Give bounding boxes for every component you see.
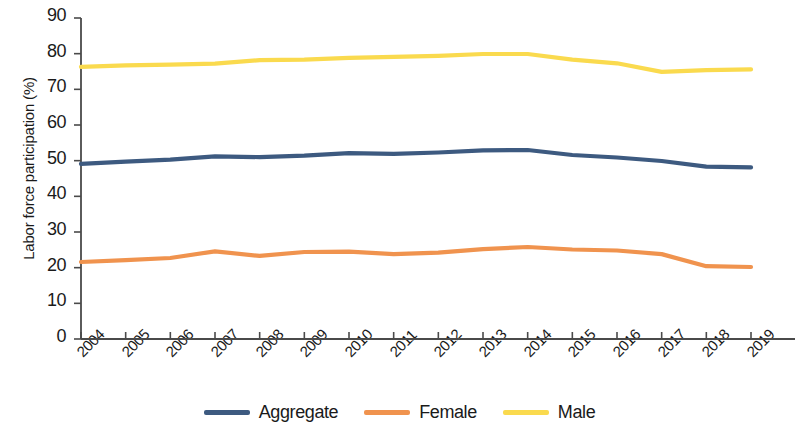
series-line-female — [81, 247, 751, 267]
legend-item-female[interactable]: Female — [364, 402, 477, 423]
legend-item-aggregate[interactable]: Aggregate — [204, 402, 338, 423]
legend-label-female: Female — [419, 402, 477, 423]
legend-item-male[interactable]: Male — [503, 402, 595, 423]
legend-swatch-aggregate — [204, 410, 250, 415]
line-chart: Labor force participation (%) 9080706050… — [0, 0, 799, 427]
chart-legend: AggregateFemaleMale — [0, 402, 799, 423]
legend-swatch-male — [503, 410, 549, 415]
series-lines — [81, 54, 751, 267]
plot-area — [0, 0, 799, 427]
legend-swatch-female — [364, 410, 410, 415]
series-line-aggregate — [81, 150, 751, 167]
legend-label-aggregate: Aggregate — [259, 402, 338, 423]
legend-label-male: Male — [558, 402, 595, 423]
series-line-male — [81, 54, 751, 72]
